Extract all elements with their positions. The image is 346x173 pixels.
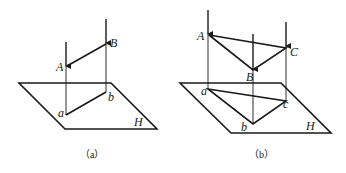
- label-a: a: [58, 106, 64, 120]
- caption-a: （a）: [80, 149, 104, 160]
- label-b: b: [241, 120, 247, 134]
- triangle-abc: [208, 89, 286, 124]
- projection-diagram: A B a b H （a） A C B a c b H （b）: [0, 0, 346, 173]
- label-A: A: [55, 60, 64, 74]
- label-H: H: [133, 115, 144, 129]
- triangle-ABC: [209, 35, 286, 70]
- label-a: a: [201, 84, 207, 98]
- segment-ab: [66, 92, 106, 115]
- label-C: C: [290, 45, 299, 59]
- label-B: B: [110, 36, 118, 50]
- figure-a: A B a b H （a）: [19, 19, 157, 160]
- figure-b: A C B a c b H （b）: [180, 10, 331, 160]
- label-B: B: [246, 70, 254, 84]
- caption-b: （b）: [249, 149, 274, 160]
- segment-AB: [67, 44, 106, 66]
- label-b: b: [108, 90, 114, 104]
- label-c: c: [283, 97, 289, 111]
- label-A: A: [196, 29, 205, 43]
- label-H: H: [305, 119, 316, 133]
